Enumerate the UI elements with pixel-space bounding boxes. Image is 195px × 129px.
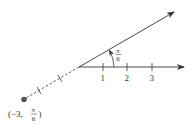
point-denominator: 6 xyxy=(32,115,36,123)
tick-label-1: 1 xyxy=(101,73,106,83)
point-label-open: (−3, xyxy=(8,109,23,119)
dashed-line-ticks xyxy=(37,75,62,94)
point-label-close: ) xyxy=(39,109,42,119)
angle-ray xyxy=(79,12,174,67)
dashed-extension xyxy=(26,67,79,98)
polar-diagram: 1 2 3 π 6 (−3, π 6 ) xyxy=(0,0,195,129)
point-label: (−3, π 6 ) xyxy=(8,106,42,123)
angle-numerator: π xyxy=(116,47,120,55)
point-numerator: π xyxy=(32,106,36,114)
angle-label: π 6 xyxy=(116,47,122,64)
tick-label-2: 2 xyxy=(125,73,130,83)
tick-label-3: 3 xyxy=(150,73,155,83)
angle-arc xyxy=(110,51,115,68)
dashed-tick-2 xyxy=(37,87,41,94)
angle-denominator: 6 xyxy=(116,55,120,63)
plotted-point xyxy=(21,97,27,103)
